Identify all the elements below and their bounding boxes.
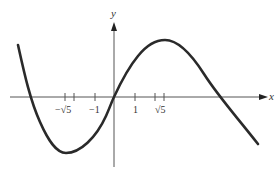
- function-graph: x y −√5 −1 1 √5: [0, 0, 276, 173]
- x-axis-label: x: [268, 90, 274, 102]
- tick-label-neg-sqrt5: −√5: [55, 104, 71, 115]
- tick-label-1: 1: [133, 104, 138, 115]
- y-axis-arrow-icon: [111, 22, 117, 31]
- tick-label-sqrt5: √5: [155, 104, 166, 115]
- y-axis-label: y: [110, 7, 116, 19]
- x-axis-arrow-icon: [259, 94, 268, 100]
- tick-label-neg-1: −1: [89, 104, 100, 115]
